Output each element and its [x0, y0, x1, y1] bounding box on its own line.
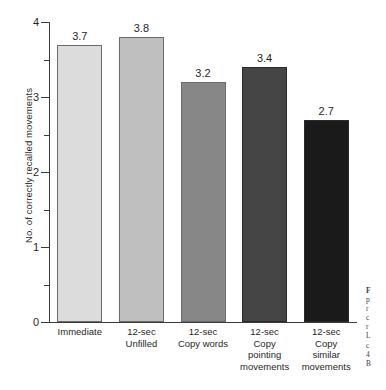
x-category-label: 12-secUnfilled — [111, 326, 173, 349]
y-tick-label: 1 — [33, 241, 39, 253]
bar-value-label: 3.7 — [72, 30, 87, 42]
bar-value-label: 3.2 — [195, 67, 210, 79]
x-category-label-line: pointing — [234, 349, 296, 361]
caption-line: 4 — [366, 350, 386, 359]
figure-caption-fragment: FprcrLc4B — [366, 286, 386, 368]
caption-line: F — [366, 286, 386, 295]
x-category-label-line: Unfilled — [111, 338, 173, 350]
y-tick-label: 0 — [33, 316, 39, 328]
x-category-label: Immediate — [49, 326, 111, 338]
bar: 3.2 — [181, 82, 226, 322]
bar-series: 3.73.83.23.42.7 — [49, 22, 357, 322]
x-category-label-line: movements — [234, 361, 296, 373]
bar-value-label: 3.4 — [257, 52, 272, 64]
x-category-label: 12-secCopysimilarmovements — [295, 326, 357, 372]
x-category-label-line: movements — [295, 361, 357, 373]
x-category-label-line: 12-sec — [172, 326, 234, 338]
y-tick-major — [41, 322, 49, 323]
caption-line: L — [366, 331, 386, 340]
y-tick-label: 3 — [33, 91, 39, 103]
x-category-label-line: Immediate — [49, 326, 111, 338]
y-axis-label: No. of correctly recalled movements — [23, 46, 34, 286]
bar-value-label: 3.8 — [134, 22, 149, 34]
x-category-label-line: 12-sec — [234, 326, 296, 338]
x-category-label-line: Copy words — [172, 338, 234, 350]
x-category-label: 12-secCopy words — [172, 326, 234, 349]
x-category-label-line: Copy — [295, 338, 357, 350]
caption-line: B — [366, 359, 386, 368]
y-tick-major — [41, 97, 49, 98]
x-axis-line — [49, 322, 357, 323]
x-category-label-line: Copy — [234, 338, 296, 350]
bar-value-label: 2.7 — [319, 105, 334, 117]
bar-chart-figure: No. of correctly recalled movements 0123… — [0, 0, 386, 390]
y-tick-major — [41, 22, 49, 23]
x-category-label-line: similar — [295, 349, 357, 361]
bar: 2.7 — [304, 120, 349, 323]
y-tick-major — [41, 172, 49, 173]
caption-line: p — [366, 295, 386, 304]
caption-line: r — [366, 322, 386, 331]
x-category-label-line: 12-sec — [111, 326, 173, 338]
plot-area: 01234 3.73.83.23.42.7 — [49, 22, 357, 322]
x-category-label: 12-secCopypointingmovements — [234, 326, 296, 372]
bar: 3.4 — [242, 67, 287, 322]
bar: 3.7 — [57, 45, 102, 323]
x-category-label-line: 12-sec — [295, 326, 357, 338]
caption-line: r — [366, 304, 386, 313]
y-tick-label: 2 — [33, 166, 39, 178]
y-tick-major — [41, 247, 49, 248]
y-tick-label: 4 — [33, 16, 39, 28]
caption-line: c — [366, 341, 386, 350]
caption-line: c — [366, 313, 386, 322]
bar: 3.8 — [119, 37, 164, 322]
x-axis-category-labels: Immediate12-secUnfilled12-secCopy words1… — [49, 326, 357, 388]
